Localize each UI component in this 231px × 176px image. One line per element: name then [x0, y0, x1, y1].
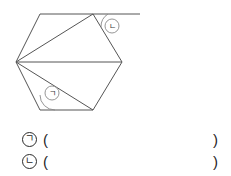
figure-area: ㄱ ㄴ: [0, 0, 231, 125]
angle-label-g-text: ㄱ: [49, 89, 56, 98]
answer-row-n: ㄴ ( ): [22, 150, 218, 172]
answer-row-g: ㄱ ( ): [22, 128, 218, 150]
answer-label-g-icon: ㄱ: [22, 132, 37, 147]
hexagon-diagram: ㄱ ㄴ: [0, 0, 231, 125]
answer-blanks-area: ㄱ ( ) ㄴ ( ): [0, 125, 231, 176]
answer-open-paren-g: (: [43, 132, 48, 147]
answer-open-paren-n: (: [43, 154, 48, 169]
angle-label-n-text: ㄴ: [109, 22, 116, 31]
answer-close-paren-g: ): [213, 132, 218, 147]
answer-close-paren-n: ): [213, 154, 218, 169]
answer-label-n-icon: ㄴ: [22, 154, 37, 169]
